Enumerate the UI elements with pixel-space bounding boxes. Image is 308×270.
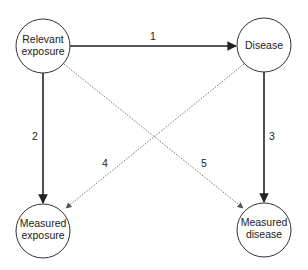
node-disease: Disease bbox=[237, 18, 291, 72]
node-label-line-2: exposure bbox=[21, 229, 64, 241]
node-label-line-1: Relevant bbox=[22, 33, 64, 45]
node-label-line-1: Disease bbox=[245, 39, 283, 51]
edge-2-exposure-to-measured-exposure: 2 bbox=[32, 73, 43, 203]
arrow-diagonal-icon bbox=[64, 64, 243, 208]
node-measured-exposure: Measured exposure bbox=[16, 204, 70, 258]
causal-diagram: 1 2 3 4 5 Relevant exposure Disease Meas… bbox=[0, 0, 308, 270]
node-label-line-1: Measured bbox=[241, 216, 288, 228]
edge-label-1: 1 bbox=[150, 30, 156, 42]
edge-3-disease-to-measured-disease: 3 bbox=[264, 72, 275, 202]
node-relevant-exposure: Relevant exposure bbox=[16, 19, 70, 73]
node-label-line-2: disease bbox=[246, 228, 282, 240]
arrow-diagonal-icon bbox=[66, 64, 244, 208]
node-label-line-2: exposure bbox=[21, 45, 64, 57]
edge-label-2: 2 bbox=[32, 130, 38, 142]
edge-4-disease-to-measured-exposure: 4 bbox=[66, 64, 244, 208]
edge-label-5: 5 bbox=[201, 157, 207, 169]
edge-1-exposure-to-disease: 1 bbox=[70, 30, 236, 46]
edge-label-3: 3 bbox=[269, 130, 275, 142]
edge-5-exposure-to-measured-disease: 5 bbox=[64, 64, 243, 208]
node-label-line-1: Measured bbox=[20, 217, 67, 229]
edge-label-4: 4 bbox=[102, 157, 108, 169]
node-measured-disease: Measured disease bbox=[237, 203, 291, 257]
